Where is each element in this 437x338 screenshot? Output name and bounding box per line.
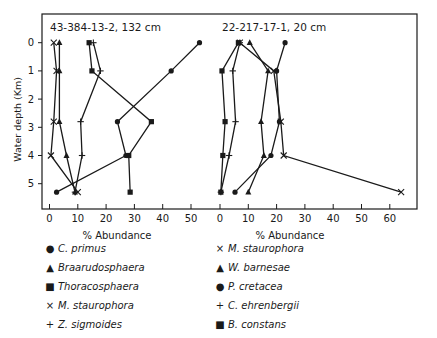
x-tick-label: 0 <box>217 213 223 224</box>
x-tick-label: 60 <box>383 213 396 224</box>
y-axis: 012345Water depth (Km) <box>12 37 42 189</box>
legend-label: C. primus <box>58 242 106 256</box>
y-tick-label: 3 <box>28 122 34 133</box>
x-tick-label: 10 <box>71 213 84 224</box>
marker-square-icon <box>89 68 94 73</box>
marker-circle-icon <box>277 119 282 124</box>
series-line <box>235 43 285 192</box>
marker-circle-icon <box>274 68 279 73</box>
legend-label: B. constans <box>228 318 286 332</box>
series-braarudosphaera <box>56 39 78 194</box>
marker-plus-icon <box>226 152 232 158</box>
marker-square-icon <box>126 153 131 158</box>
marker-circle-icon <box>268 153 273 158</box>
x-tick-label: 30 <box>128 213 141 224</box>
x-axis-label: % Abundance <box>255 230 324 241</box>
series-line <box>221 43 240 192</box>
series-z-sigmoides <box>72 40 104 196</box>
panel-title: 43-384-13-2, 132 cm <box>50 21 161 33</box>
marker-circle-icon <box>197 40 202 45</box>
series-m-staurophora <box>48 40 81 195</box>
legend-marker-icon: ▲ <box>44 261 56 275</box>
y-tick-label: 5 <box>28 178 34 189</box>
marker-triangle-icon <box>261 152 267 158</box>
legend-label: M. staurophora <box>228 242 304 256</box>
y-axis-label: Water depth (Km) <box>12 77 23 162</box>
marker-plus-icon <box>97 68 103 74</box>
marker-triangle-icon <box>56 39 62 45</box>
legend-marker-icon: × <box>44 299 56 313</box>
panel-title: 22-217-17-1, 20 cm <box>222 21 326 33</box>
marker-circle-icon <box>54 190 59 195</box>
legend-marker-icon: × <box>214 242 226 256</box>
legend-label: Z. sigmoides <box>58 318 122 332</box>
legend-label: P. cretacea <box>228 280 283 294</box>
series-line <box>75 43 100 192</box>
series-line <box>57 43 200 192</box>
x-tick-label: 40 <box>327 213 340 224</box>
legend-label: Thoracosphaera <box>58 280 139 294</box>
legend-marker-icon: + <box>44 318 56 332</box>
marker-triangle-icon <box>56 118 62 124</box>
series-b-constans <box>218 40 241 195</box>
legend-marker-icon: ● <box>214 280 226 294</box>
panel-left: 43-384-13-2, 132 cm01020304050% Abundanc… <box>46 21 202 241</box>
marker-circle-icon <box>282 40 287 45</box>
legend-marker-icon: ▲ <box>214 261 226 275</box>
series-w-barnesae <box>245 39 271 194</box>
x-tick-label: 40 <box>156 213 169 224</box>
y-tick-label: 1 <box>28 65 34 76</box>
series-line <box>248 43 268 192</box>
marker-triangle-icon <box>63 152 69 158</box>
marker-triangle-icon <box>245 189 251 195</box>
marker-circle-icon <box>169 68 174 73</box>
y-tick-label: 4 <box>28 150 34 161</box>
marker-square-icon <box>236 40 241 45</box>
marker-square-icon <box>220 153 225 158</box>
series-p-cretacea <box>232 40 287 195</box>
series-c-primus <box>54 40 202 195</box>
marker-square-icon <box>218 190 223 195</box>
y-tick-label: 0 <box>28 37 34 48</box>
marker-square-icon <box>219 68 224 73</box>
x-tick-label: 20 <box>270 213 283 224</box>
marker-square-icon <box>128 190 133 195</box>
marker-triangle-icon <box>258 118 264 124</box>
legend-label: Braarudosphaera <box>58 261 145 275</box>
x-axis-label: % Abundance <box>82 230 151 241</box>
marker-circle-icon <box>115 119 120 124</box>
marker-triangle-icon <box>247 39 253 45</box>
legend-label: W. barnesae <box>228 261 290 275</box>
marker-plus-icon <box>77 118 83 124</box>
legend-marker-icon: ● <box>44 242 56 256</box>
legend-marker-icon: ■ <box>214 318 226 332</box>
marker-square-icon <box>222 119 227 124</box>
series-line <box>51 43 78 192</box>
x-tick-label: 0 <box>46 213 52 224</box>
x-tick-label: 20 <box>100 213 113 224</box>
legend-marker-icon: + <box>214 299 226 313</box>
legend-label: C. ehrenbergii <box>228 299 299 313</box>
legend-marker-icon: ■ <box>44 280 56 294</box>
y-tick-label: 2 <box>28 94 34 105</box>
x-tick-label: 50 <box>185 213 198 224</box>
x-tick-label: 50 <box>355 213 368 224</box>
panel-right: 22-217-17-1, 20 cm0102030405060% Abundan… <box>217 21 404 241</box>
legend-label: M. staurophora <box>58 299 134 313</box>
marker-circle-icon <box>232 190 237 195</box>
marker-plus-icon <box>232 118 238 124</box>
marker-square-icon <box>149 119 154 124</box>
x-tick-label: 10 <box>242 213 255 224</box>
marker-plus-icon <box>79 152 85 158</box>
x-tick-label: 30 <box>299 213 312 224</box>
marker-plus-icon <box>230 68 236 74</box>
